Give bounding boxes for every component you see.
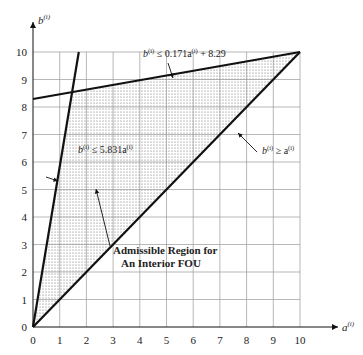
y-tick: 10: [16, 46, 28, 58]
annotation-upper-bound: b(i) ≤ 0.171a(i) + 8.29: [143, 47, 226, 59]
x-tick: 6: [190, 334, 196, 346]
y-tick: 3: [22, 239, 28, 251]
x-axis-label: a(i): [342, 320, 355, 333]
region-label-line2: An Interior FOU: [121, 257, 201, 269]
x-tick: 8: [244, 334, 250, 346]
y-tick: 5: [22, 184, 28, 196]
x-tick: 9: [271, 334, 277, 346]
x-tick: 7: [217, 334, 223, 346]
fou-admissible-region-diagram: 0 1 2 3 4 5 6 7 8 9 10 0 1 2 3 4 5 6 7 8…: [0, 0, 363, 355]
region-label-line1: Admissible Region for: [113, 244, 218, 256]
y-tick: 4: [22, 211, 28, 223]
x-tick: 4: [137, 334, 143, 346]
annotation-diagonal-bound: b(i) ≥ a(i): [262, 144, 294, 156]
y-tick: 2: [22, 266, 28, 278]
x-tick: 10: [295, 334, 307, 346]
x-tick: 0: [30, 334, 36, 346]
y-tick: 0: [22, 321, 28, 333]
x-tick: 1: [57, 334, 63, 346]
annotation-diagonal-arrow: [238, 133, 257, 152]
y-tick: 1: [22, 294, 28, 306]
y-tick: 9: [22, 74, 28, 86]
y-axis-label: b(i): [38, 13, 51, 26]
x-tick: 5: [164, 334, 170, 346]
x-tick: 3: [110, 334, 116, 346]
y-tick: 8: [22, 101, 28, 113]
y-tick-labels: 0 1 2 3 4 5 6 7 8 9 10: [16, 46, 28, 333]
x-tick-labels: 0 1 2 3 4 5 6 7 8 9 10: [30, 334, 306, 346]
y-tick: 7: [22, 129, 28, 141]
y-tick: 6: [22, 156, 28, 168]
x-tick: 2: [84, 334, 90, 346]
annotation-steep-arrow: [46, 177, 58, 181]
